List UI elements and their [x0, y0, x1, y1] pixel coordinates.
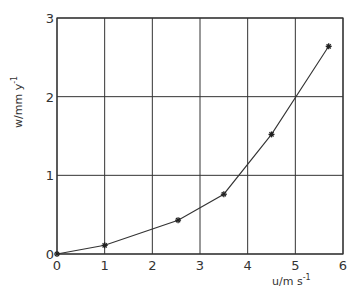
asterisk-marker-icon	[54, 251, 60, 257]
x-tick-label: 6	[339, 258, 347, 273]
line-chart: 0123456 0123 u/m s-1 w/mm y-1	[0, 0, 355, 295]
y-tick-labels: 0123	[46, 11, 54, 262]
asterisk-marker-icon	[269, 131, 275, 137]
x-tick-label: 2	[148, 258, 156, 273]
data-markers	[54, 43, 332, 257]
y-tick-label: 2	[46, 90, 54, 105]
x-tick-label: 1	[101, 258, 109, 273]
x-axis-label: u/m s-1	[272, 273, 311, 288]
asterisk-marker-icon	[175, 217, 181, 223]
data-line	[57, 46, 329, 254]
asterisk-marker-icon	[221, 191, 227, 197]
asterisk-marker-icon	[102, 242, 108, 248]
y-tick-label: 0	[46, 247, 54, 262]
x-tick-labels: 0123456	[53, 258, 347, 273]
y-tick-label: 3	[46, 11, 54, 26]
x-tick-label: 3	[196, 258, 204, 273]
x-tick-label: 0	[53, 258, 61, 273]
x-tick-label: 4	[244, 258, 252, 273]
asterisk-marker-icon	[326, 43, 332, 49]
y-tick-label: 1	[46, 168, 54, 183]
x-tick-label: 5	[291, 258, 299, 273]
y-axis-label: w/mm y-1	[10, 76, 25, 128]
grid-lines	[57, 18, 343, 254]
